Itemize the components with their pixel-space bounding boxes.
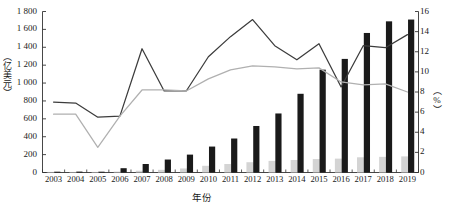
plot-area	[0, 0, 449, 207]
chart-container: （亿美元） （%） 年份 02004006008001 0001 2001 40…	[0, 0, 449, 207]
